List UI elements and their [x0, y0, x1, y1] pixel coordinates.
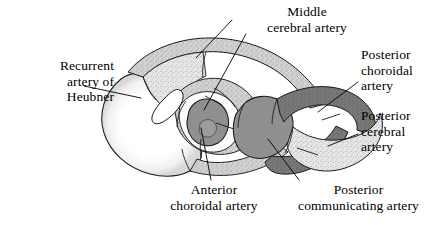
- label-line: Posterior: [280, 182, 437, 198]
- label-posterior-cerebral-artery: Posterior cerebral artery: [361, 108, 437, 155]
- label-posterior-communicating-artery: Posterior communicating artery: [280, 182, 437, 213]
- label-anterior-choroidal-artery: Anterior choroidal artery: [148, 182, 280, 213]
- label-line: Posterior: [361, 108, 437, 124]
- label-line: Posterior: [361, 47, 437, 63]
- label-line: choroidal artery: [148, 198, 280, 214]
- brain-section-outline: [102, 38, 383, 176]
- label-line: artery: [361, 139, 437, 155]
- label-recurrent-artery-of-heubner: Recurrent artery of Heubner: [6, 58, 114, 105]
- label-posterior-choroidal-artery: Posterior choroidal artery: [361, 47, 437, 94]
- label-line: cerebral artery: [247, 20, 367, 36]
- label-line: Recurrent: [6, 58, 114, 74]
- label-line: choroidal: [361, 63, 437, 79]
- label-line: Anterior: [148, 182, 280, 198]
- anterior-choroidal-inner-notch: [199, 120, 216, 138]
- label-line: Heubner: [6, 89, 114, 105]
- label-middle-cerebral-artery: Middle cerebral artery: [247, 4, 367, 35]
- anatomical-figure: Recurrent artery of Heubner Middle cereb…: [0, 0, 437, 225]
- label-line: Middle: [247, 4, 367, 20]
- label-line: cerebral: [361, 124, 437, 140]
- label-line: communicating artery: [280, 198, 437, 214]
- label-line: artery: [361, 78, 437, 94]
- label-line: artery of: [6, 74, 114, 90]
